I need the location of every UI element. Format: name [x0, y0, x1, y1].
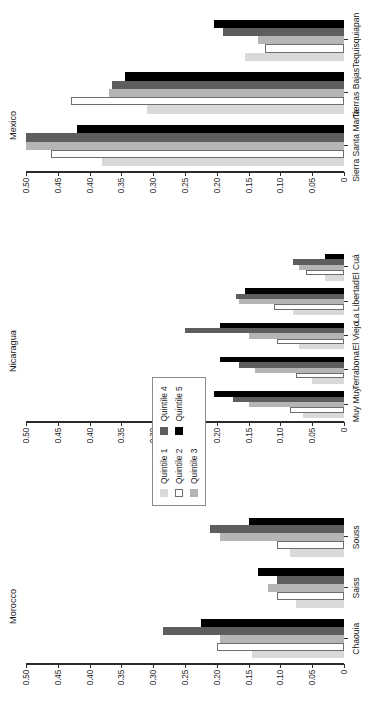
legend-item-quintile-3: Quintile 3 — [189, 449, 199, 497]
bar — [312, 378, 344, 383]
category-label: Sierra Santa Marta — [351, 110, 361, 182]
y-axis-tick — [344, 172, 345, 176]
y-axis-tick-label: 0.20 — [212, 178, 221, 193]
y-axis-tick — [280, 422, 281, 426]
baseline — [26, 663, 344, 664]
y-axis-tick — [249, 664, 250, 668]
bar — [71, 97, 344, 105]
legend-label-quintile-1: Quintile 1 — [159, 449, 169, 484]
bar — [185, 328, 344, 333]
bar — [299, 265, 344, 270]
y-axis-tick-label: 0.40 — [85, 428, 94, 443]
legend-label-quintile-5: Quintile 5 — [174, 386, 184, 421]
legend-column-right: Quintile 4 Quintile 5 — [159, 386, 199, 434]
y-axis-tick-label: 0.15 — [244, 178, 253, 193]
y-axis-tick-label: 0.30 — [149, 178, 158, 193]
bar-group — [26, 619, 344, 659]
y-axis-tick-label: 0.45 — [53, 428, 62, 443]
y-axis-tick — [58, 422, 59, 426]
bar — [258, 568, 344, 576]
y-axis-tick — [26, 664, 27, 668]
bar — [210, 526, 344, 534]
y-axis-tick-label: 0.50 — [22, 178, 31, 193]
bar — [223, 28, 344, 36]
category-tick — [344, 587, 348, 588]
y-axis-tick — [153, 664, 154, 668]
legend: Quintile 1 Quintile 2 Quintile 3 Quintil… — [152, 377, 206, 506]
y-axis-tick — [90, 172, 91, 176]
y-axis-tick-label: 0.10 — [276, 428, 285, 443]
plot-area-morocco: ChaouiaSaissSouss — [26, 512, 344, 664]
y-axis-tick-label: 0.15 — [244, 428, 253, 443]
category-label: Souss — [351, 525, 361, 549]
category-label: El Cuá — [351, 254, 361, 280]
bar — [163, 627, 344, 635]
y-axis-tick — [26, 422, 27, 426]
y-axis-tick-label: 0.15 — [244, 670, 253, 685]
bar — [277, 339, 344, 344]
bar — [252, 651, 344, 659]
category-tick — [344, 335, 348, 336]
bar — [325, 254, 344, 259]
legend-item-quintile-4: Quintile 4 — [159, 386, 169, 434]
bar — [236, 294, 344, 299]
legend-item-quintile-2: Quintile 2 — [174, 449, 184, 497]
y-axis-tick — [217, 172, 218, 176]
bar — [220, 357, 344, 362]
figure-canvas: Morocco 00.050.100.150.200.250.300.350.4… — [0, 0, 392, 706]
legend-item-quintile-1: Quintile 1 — [159, 449, 169, 497]
category-tick — [344, 145, 348, 146]
bar — [249, 518, 344, 526]
y-axis-tick — [344, 422, 345, 426]
y-axis-tick — [90, 664, 91, 668]
bar — [290, 549, 344, 557]
category-label: Tierras Bajas — [351, 68, 361, 118]
y-axis-tick-label: 0.05 — [308, 178, 317, 193]
panel-title-nicaragua: Nicaragua — [8, 330, 18, 372]
bar — [296, 600, 344, 608]
bar — [214, 391, 344, 396]
legend-item-quintile-5: Quintile 5 — [174, 386, 184, 434]
plot-area-mexico: Sierra Santa MartaTierras BajasTequisqui… — [26, 14, 344, 172]
y-axis-tick-label: 0.25 — [181, 670, 190, 685]
y-axis-tick-label: 0.30 — [149, 670, 158, 685]
panel-title-mexico: Mexico — [8, 111, 18, 140]
panel-morocco: Morocco 00.050.100.150.200.250.300.350.4… — [26, 512, 344, 698]
y-axis-tick-label: 0.25 — [181, 178, 190, 193]
bar — [290, 408, 344, 413]
bar — [102, 158, 344, 166]
bar — [293, 259, 344, 264]
legend-swatch-quintile-4 — [160, 427, 168, 435]
bar — [303, 413, 344, 418]
baseline — [26, 171, 344, 172]
bar-group — [26, 518, 344, 558]
bar-group — [26, 20, 344, 61]
category-tick — [344, 266, 348, 267]
bar-group — [26, 288, 344, 315]
y-axis-tick-label: 0.20 — [212, 428, 221, 443]
bar — [277, 592, 344, 600]
bar — [249, 402, 344, 407]
panel-title-morocco: Morocco — [8, 589, 18, 624]
category-tick — [344, 301, 348, 302]
legend-swatch-quintile-1 — [160, 489, 168, 497]
y-axis-tick — [185, 664, 186, 668]
category-tick — [344, 92, 348, 93]
bar — [77, 125, 344, 133]
y-axis-tick-label: 0.10 — [276, 670, 285, 685]
bar — [249, 333, 344, 338]
legend-column-left: Quintile 1 Quintile 2 Quintile 3 — [159, 449, 199, 497]
y-axis-tick — [58, 172, 59, 176]
category-tick — [344, 638, 348, 639]
bar — [255, 368, 344, 373]
category-label: Terrabona — [351, 351, 361, 390]
category-label: Tequisquiapan — [351, 13, 361, 68]
category-label: La Libertad — [351, 280, 361, 323]
y-axis-tick-label: 0.35 — [117, 178, 126, 193]
bar — [51, 150, 344, 158]
y-axis-mexico: 00.050.100.150.200.250.300.350.400.450.5… — [26, 172, 344, 206]
y-axis-tick — [26, 172, 27, 176]
category-tick — [344, 536, 348, 537]
y-axis-tick — [153, 172, 154, 176]
legend-label-quintile-4: Quintile 4 — [159, 386, 169, 421]
